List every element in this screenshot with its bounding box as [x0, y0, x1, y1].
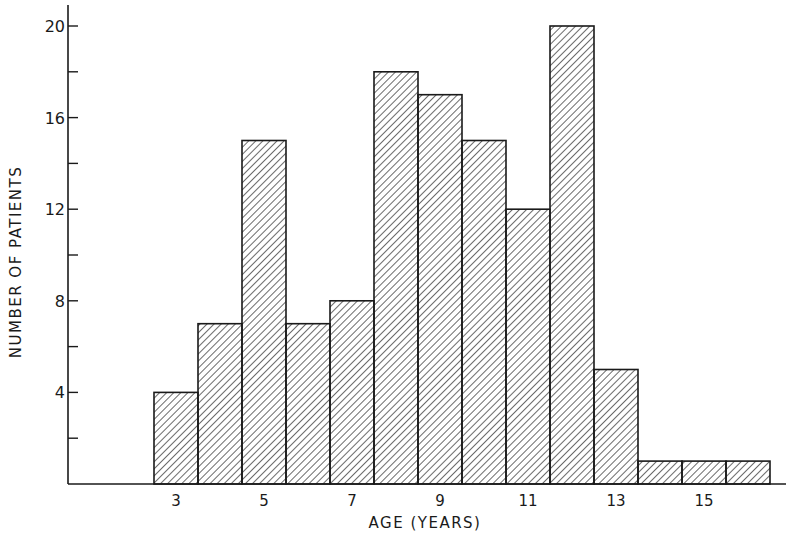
y-tick-label: 12	[45, 200, 65, 219]
bar-age-5	[242, 141, 286, 485]
bar-age-4	[198, 324, 242, 484]
bar-age-8	[374, 72, 418, 484]
x-tick-label: 11	[518, 492, 537, 510]
x-tick-label: 5	[259, 492, 269, 510]
bar-age-6	[286, 324, 330, 484]
y-tick-label: 4	[55, 383, 65, 402]
y-tick-label: 8	[55, 291, 65, 310]
bar-age-10	[462, 141, 506, 485]
bar-age-16	[726, 461, 770, 484]
x-tick-label: 9	[435, 492, 445, 510]
y-tick-label: 20	[45, 17, 65, 36]
bar-age-9	[418, 95, 462, 484]
x-axis-label: AGE (YEARS)	[369, 514, 482, 532]
histogram-chart	[0, 0, 786, 549]
bars-group	[154, 26, 770, 484]
x-tick-label: 3	[171, 492, 181, 510]
x-tick-label: 13	[606, 492, 625, 510]
bar-age-11	[506, 209, 550, 484]
bar-age-7	[330, 301, 374, 484]
bar-age-3	[154, 392, 198, 484]
bar-age-15	[682, 461, 726, 484]
bar-age-12	[550, 26, 594, 484]
x-tick-label: 7	[347, 492, 357, 510]
y-axis-label: NUMBER OF PATIENTS	[7, 166, 25, 358]
bar-age-14	[638, 461, 682, 484]
y-tick-label: 16	[45, 108, 65, 127]
bar-age-13	[594, 370, 638, 485]
x-tick-label: 15	[694, 492, 713, 510]
